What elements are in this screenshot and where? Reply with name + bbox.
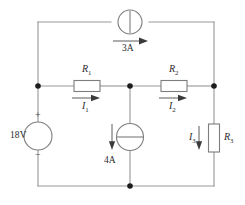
resistor-r3-subscript: 3 <box>230 137 233 144</box>
current-i1-subscript: 1 <box>85 106 88 113</box>
current-source-3a-label: 3A <box>122 44 134 54</box>
current-i1-arrow-head <box>91 95 100 101</box>
voltage-source-18v-label: 18V <box>10 131 27 141</box>
node-dot-left-middle <box>35 83 41 89</box>
current-3a-arrow-head <box>139 38 148 45</box>
current-i3-label: I3 <box>189 132 196 142</box>
node-dot-center-bottom <box>127 183 133 189</box>
current-i2-arrow-head <box>178 95 187 101</box>
current-i3-subscript: 3 <box>192 137 195 144</box>
resistor-r1-subscript: 1 <box>88 69 91 76</box>
resistor-r3-box <box>209 124 220 152</box>
current-i2-subscript: 2 <box>172 106 175 113</box>
node-dot-right-middle <box>211 83 217 89</box>
voltage-source-minus-sign: − <box>35 150 41 160</box>
current-source-4a-label: 4A <box>104 156 116 166</box>
current-4a-arrow-head <box>109 141 115 150</box>
voltage-source-plus-sign: + <box>35 110 41 120</box>
resistor-r2-subscript: 2 <box>175 69 178 76</box>
circuit-diagram: 3A 18V + − R1 I1 R2 I2 R3 I3 4A <box>0 0 245 205</box>
current-i1-label: I1 <box>82 101 89 111</box>
resistor-r2-label: R2 <box>169 64 179 74</box>
voltage-source-18v-circle <box>24 122 52 150</box>
resistor-r1-box <box>74 81 100 92</box>
resistor-r2-box <box>161 81 187 92</box>
resistor-r3-label: R3 <box>224 132 234 142</box>
resistor-r1-label: R1 <box>82 64 92 74</box>
circuit-schematic-canvas <box>0 0 245 205</box>
node-dot-center-middle <box>127 83 133 89</box>
current-i3-arrow-head <box>196 141 202 150</box>
current-i2-label: I2 <box>169 101 176 111</box>
